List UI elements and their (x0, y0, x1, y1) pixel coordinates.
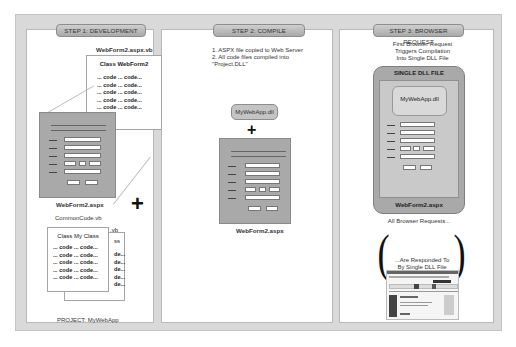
dll-box: MyWebApp.dll (392, 86, 447, 116)
aspx-filename-1: WebForm2.aspx (56, 201, 104, 208)
plus-icon: + (131, 193, 144, 215)
codebehind-filename: WebForm2.aspx.vb (96, 46, 153, 53)
codebehind-code: ... code ... code... ... code ... code..… (97, 74, 161, 112)
project-label: PROJECT: MyWebApp (57, 317, 119, 323)
single-dll-title: SINGLE DLL FILE (374, 70, 464, 76)
aspx-filename-2: WebForm2.aspx (236, 227, 284, 234)
plus-icon: + (247, 122, 256, 138)
first-request-text: First Browser Request Triggers Compilati… (380, 41, 465, 63)
dll-badge: MyWebApp.dll (231, 104, 278, 120)
codebehind-class: Class WebForm2 (87, 61, 161, 67)
common-code: ... code ... code... ... code ... code..… (53, 244, 108, 282)
aspx-form-1 (39, 112, 116, 198)
single-dll-container: SINGLE DLL FILE MyWebApp.dll WebForm2.as… (373, 66, 465, 214)
common-filename: CommonCode.vb (55, 215, 102, 221)
aspx-form-2 (219, 138, 291, 224)
step-1-label: STEP 1: DEVELOPMENT (56, 24, 146, 37)
step-2-label: STEP 2: COMPILE (213, 24, 305, 37)
common-file: Class My Class ... code ... code... ... … (47, 227, 109, 292)
aspx-filename-3: WebForm2.aspx (374, 201, 464, 208)
step-3-label: STEP 3: BROWSER REQUEST (373, 24, 464, 37)
single-dll-inner: MyWebApp.dll (379, 80, 459, 198)
compile-notes: 1. ASPX file copied to Web Server 2. All… (212, 47, 303, 69)
common-class: Class My Class (48, 233, 108, 239)
browser-screenshot-thumbnail (386, 270, 459, 320)
all-requests-text: All Browser Requests... (382, 218, 456, 224)
